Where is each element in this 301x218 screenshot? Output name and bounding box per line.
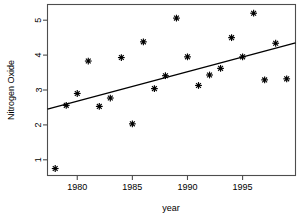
marker-core [274, 42, 277, 45]
marker-core [142, 41, 145, 44]
marker-core [263, 79, 266, 82]
data-point [272, 40, 279, 47]
marker-core [219, 67, 222, 70]
marker-core [186, 56, 189, 59]
data-point [85, 58, 92, 65]
marker-core [54, 167, 57, 170]
data-point [217, 65, 224, 72]
data-point [118, 54, 125, 61]
x-tick-label: 1980 [67, 182, 87, 192]
x-tick-label: 1995 [233, 182, 253, 192]
marker-core [120, 56, 123, 59]
data-point [162, 72, 169, 79]
data-point [96, 103, 103, 110]
data-point [184, 53, 191, 60]
data-point [261, 76, 268, 83]
marker-core [164, 74, 167, 77]
x-axis-label: year [162, 203, 180, 213]
marker-core [197, 84, 200, 87]
marker-core [285, 78, 288, 81]
marker-core [109, 97, 112, 100]
plot-canvas: 1980198519901995 12345 year Nitrogen Oxi… [0, 0, 301, 218]
marker-core [230, 36, 233, 39]
data-point [250, 10, 257, 17]
data-point [151, 85, 158, 92]
marker-core [65, 104, 68, 107]
marker-core [252, 12, 255, 15]
y-tick-label: 2 [34, 122, 44, 127]
y-tick-label: 1 [34, 157, 44, 162]
marker-core [175, 17, 178, 20]
marker-core [76, 92, 79, 95]
x-tick-label: 1985 [122, 182, 142, 192]
data-point [52, 165, 59, 172]
y-tick-label: 4 [34, 53, 44, 58]
plot-background [0, 0, 301, 218]
data-point [107, 95, 114, 102]
y-tick-label: 5 [34, 18, 44, 23]
marker-core [87, 60, 90, 63]
data-point [140, 38, 147, 45]
marker-core [241, 56, 244, 59]
data-point [239, 53, 246, 60]
data-point [283, 75, 290, 82]
data-point [173, 15, 180, 22]
data-point [129, 120, 136, 127]
data-point [195, 82, 202, 89]
y-axis-label: Nitrogen Oxide [6, 60, 16, 120]
x-tick-label: 1990 [177, 182, 197, 192]
y-tick-label: 3 [34, 87, 44, 92]
data-point [74, 90, 81, 97]
marker-core [131, 123, 134, 126]
data-point [63, 102, 70, 109]
marker-core [98, 105, 101, 108]
data-point [206, 72, 213, 79]
marker-core [208, 74, 211, 77]
marker-core [153, 87, 156, 90]
data-point [228, 34, 235, 41]
scatter-plot-figure: 1980198519901995 12345 year Nitrogen Oxi… [0, 0, 301, 218]
